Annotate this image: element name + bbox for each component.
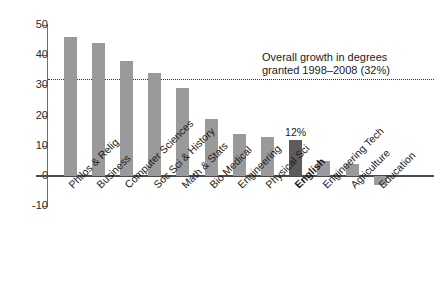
annotation-line-1: Overall growth in degrees <box>262 51 390 64</box>
bar-philos-relig <box>64 37 77 176</box>
y-tick-label: 20 <box>10 109 48 121</box>
reference-line-annotation: Overall growth in degrees granted 1998–2… <box>262 51 390 77</box>
reference-line <box>48 79 434 80</box>
y-tick-label: 40 <box>10 48 48 60</box>
bar-value-label: 12% <box>282 126 310 138</box>
annotation-line-2: granted 1998–2008 (32%) <box>262 64 390 77</box>
y-tick-label: -10 <box>10 199 48 211</box>
y-tick-label: 10 <box>10 139 48 151</box>
y-tick-label: 50 <box>10 18 48 30</box>
y-tick-label: 30 <box>10 78 48 90</box>
bar-chart: 50403020100-10 Overall growth in degrees… <box>0 0 441 283</box>
